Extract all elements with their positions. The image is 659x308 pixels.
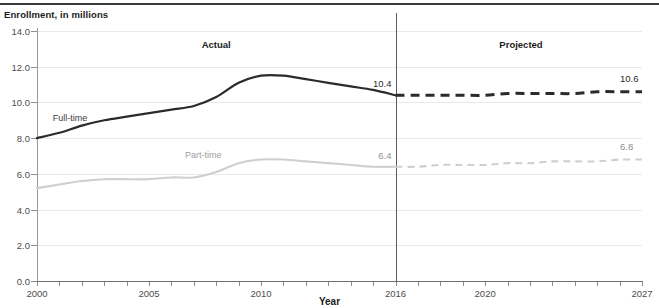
series-label-part-time: Part-time [185,150,222,160]
series-line-actual-full-time [37,75,396,138]
value-label-full-time-2016: 10.4 [373,78,392,89]
series-line-actual-part-time [37,159,396,188]
enrollment-line-chart: Enrollment, in millions 0.02.04.06.08.01… [0,0,659,308]
value-label-part-time-2027: 6.8 [620,141,633,152]
series-lines [0,0,659,308]
series-line-projected-part-time [396,159,642,166]
series-label-full-time: Full-time [53,113,88,123]
series-line-projected-full-time [396,92,642,96]
value-label-full-time-2027: 10.6 [620,73,639,84]
x-axis-title: Year [0,296,659,307]
value-label-part-time-2016: 6.4 [378,150,391,161]
